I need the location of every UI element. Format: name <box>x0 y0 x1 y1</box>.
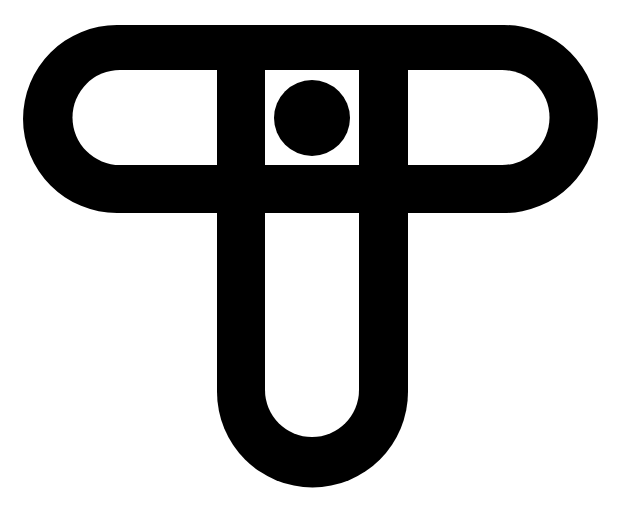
center-dot <box>274 80 350 156</box>
monogram-logo-icon <box>0 0 623 522</box>
right-ring-hole <box>408 70 550 165</box>
left-ring-hole <box>73 70 218 165</box>
u-loop-hole <box>265 213 359 437</box>
logo <box>0 0 623 522</box>
